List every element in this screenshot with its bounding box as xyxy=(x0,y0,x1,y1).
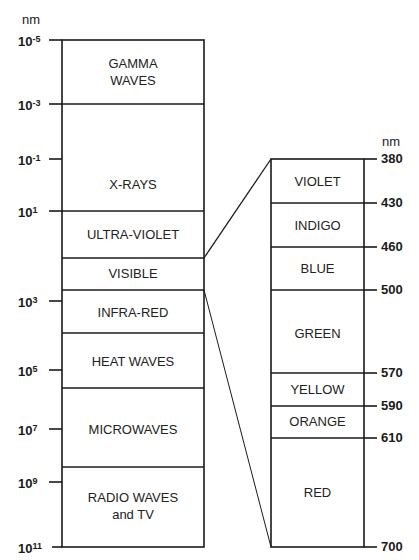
band-label-line: WAVES xyxy=(62,72,204,89)
tick-exponent: 5 xyxy=(32,364,37,374)
tick-exponent: 11 xyxy=(32,541,42,551)
band-radio-waves-tv: RADIO WAVES and TV xyxy=(62,489,204,523)
band-blue: BLUE xyxy=(271,260,364,277)
band-ultra-violet: ULTRA-VIOLET xyxy=(62,226,204,243)
band-red: RED xyxy=(271,484,364,501)
tick-exponent: 3 xyxy=(32,295,37,305)
band-indigo: INDIGO xyxy=(271,217,364,234)
tick-1e9: 109 xyxy=(18,474,37,491)
tick-1e3: 103 xyxy=(18,293,37,310)
tick-base: 10 xyxy=(18,98,32,113)
band-violet: VIOLET xyxy=(271,173,364,190)
band-microwaves: MICROWAVES xyxy=(62,421,204,438)
tick-base: 10 xyxy=(18,541,32,556)
band-visible: VISIBLE xyxy=(62,265,204,282)
tick-base: 10 xyxy=(18,205,32,220)
tick-base: 10 xyxy=(18,153,32,168)
tick-1e7: 107 xyxy=(18,421,37,438)
tick-1e-1: 10-1 xyxy=(18,151,40,168)
tick-exponent: 7 xyxy=(32,423,37,433)
tick-1e-5: 10-5 xyxy=(18,32,40,49)
band-yellow: YELLOW xyxy=(271,381,364,398)
tick-1e11: 1011 xyxy=(18,539,42,556)
band-infra-red: INFRA-RED xyxy=(62,304,204,321)
tick-exponent: 1 xyxy=(32,205,37,215)
band-green: GREEN xyxy=(271,325,364,342)
tick-exponent: -1 xyxy=(32,153,40,163)
tick-500: 500 xyxy=(381,283,403,297)
tick-1e5: 105 xyxy=(18,362,37,379)
tick-base: 10 xyxy=(18,423,32,438)
tick-base: 10 xyxy=(18,295,32,310)
band-label-line: GAMMA xyxy=(62,55,204,72)
band-gamma-waves: GAMMA WAVES xyxy=(62,55,204,89)
tick-1e1: 101 xyxy=(18,203,37,220)
connector-top xyxy=(204,159,271,258)
band-label-line: RADIO WAVES xyxy=(62,489,204,506)
connector-bottom xyxy=(204,290,271,547)
left-spectrum-box xyxy=(62,40,204,547)
tick-exponent: -3 xyxy=(32,98,40,108)
tick-exponent: 9 xyxy=(32,476,37,486)
tick-610: 610 xyxy=(381,431,403,445)
tick-base: 10 xyxy=(18,364,32,379)
band-heat-waves: HEAT WAVES xyxy=(62,353,204,370)
tick-base: 10 xyxy=(18,34,32,49)
band-orange: ORANGE xyxy=(271,413,364,430)
tick-base: 10 xyxy=(18,476,32,491)
tick-1e-3: 10-3 xyxy=(18,96,40,113)
tick-700: 700 xyxy=(381,540,403,554)
tick-570: 570 xyxy=(381,366,403,380)
band-label-line: and TV xyxy=(62,506,204,523)
right-unit-label: nm xyxy=(382,134,400,149)
tick-430: 430 xyxy=(381,196,403,210)
band-x-rays: X-RAYS xyxy=(62,176,204,193)
tick-exponent: -5 xyxy=(32,34,40,44)
tick-460: 460 xyxy=(381,240,403,254)
tick-380: 380 xyxy=(381,152,403,166)
left-unit-label: nm xyxy=(22,12,40,27)
tick-590: 590 xyxy=(381,399,403,413)
